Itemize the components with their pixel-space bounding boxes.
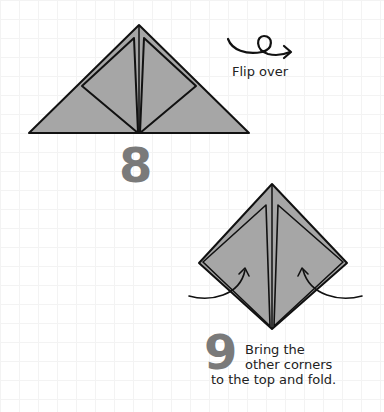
flip-over-label: Flip over — [232, 64, 288, 79]
step-9-diamond — [199, 184, 347, 329]
step-9-instruction-line-3: to the top and fold. — [211, 372, 336, 387]
step-number-9: 9 — [204, 328, 237, 376]
step-9-instruction-line-2: other corners — [245, 357, 332, 372]
step-number-8: 8 — [119, 141, 152, 189]
origami-diagram — [0, 0, 384, 412]
step-9-instruction-line-1: Bring the — [245, 342, 305, 357]
flip-over-arrow-icon — [228, 36, 291, 58]
step-8-triangle — [29, 25, 249, 133]
